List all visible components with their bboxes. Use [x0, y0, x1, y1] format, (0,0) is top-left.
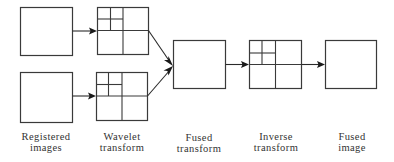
- label-registered-images-line2: images: [30, 142, 62, 153]
- label-fused-image-line2: image: [338, 142, 366, 153]
- arrow-fused-to-inverse: [226, 61, 250, 68]
- arrow-wavelet-2-to-fused: [148, 66, 174, 96]
- label-inverse-transform-line2: transform: [254, 142, 298, 153]
- wavelet-transform-2: [97, 73, 148, 121]
- arrow-registered-2-to-wavelet-2: [73, 93, 97, 100]
- label-wavelet-transform-line1: Wavelet: [104, 131, 141, 142]
- fusion-diagram: Registered images Wavelet transform Fuse…: [0, 0, 394, 162]
- fused-image: [326, 41, 377, 89]
- label-fused-transform-line2: transform: [177, 143, 221, 154]
- fused-transform: [174, 41, 226, 89]
- arrow-registered-1-to-wavelet-1: [73, 28, 98, 35]
- registered-image-1: [21, 8, 73, 56]
- label-wavelet-transform-line2: transform: [100, 142, 144, 153]
- wavelet-transform-1: [98, 8, 149, 55]
- arrow-wavelet-1-to-fused: [149, 31, 174, 67]
- label-fused-image-line1: Fused: [338, 131, 365, 142]
- arrow-inverse-to-fused-image: [302, 61, 326, 68]
- inverse-transform: [250, 41, 302, 89]
- label-registered-images-line1: Registered: [22, 131, 71, 142]
- registered-image-2: [21, 73, 73, 123]
- label-inverse-transform-line1: Inverse: [259, 131, 293, 142]
- label-fused-transform-line1: Fused: [185, 132, 212, 143]
